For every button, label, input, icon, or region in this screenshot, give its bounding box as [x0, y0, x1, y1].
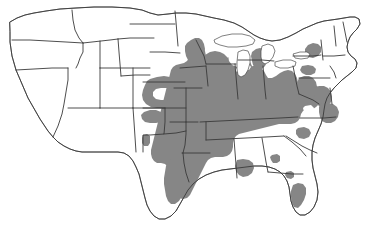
- range-kansas-missouri-extension: [141, 110, 164, 123]
- distribution-map-figure: [0, 0, 367, 233]
- cutout-louisiana-coastal: [232, 177, 250, 187]
- us-distribution-map: [0, 0, 367, 233]
- lake-ontario: [293, 52, 310, 59]
